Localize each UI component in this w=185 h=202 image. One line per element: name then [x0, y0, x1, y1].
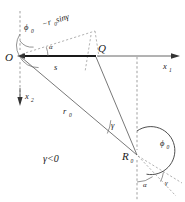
label-x2-axis-subscript: 2 [31, 97, 34, 103]
segment-r0 [21, 57, 137, 155]
projection-dashed-upper [22, 31, 95, 54]
label-gamma-at-r0: γ [111, 120, 115, 130]
label-segment-r0: r [63, 106, 67, 116]
label-phi0-origin-subscript: 0 [31, 28, 34, 34]
arc-phi0-at-r0 [137, 127, 175, 175]
label-phi0-origin: ϕ [24, 22, 29, 32]
label-projection-tail: sinγ [55, 11, 71, 25]
label-alpha-lower: α [143, 181, 147, 189]
label-origin: O [5, 51, 13, 63]
x2-axis-arrowhead [17, 97, 22, 106]
segment-q-to-r0 [96, 57, 137, 155]
label-r-point-subscript: 0 [131, 158, 134, 164]
label-phi0-at-r0-subscript: 0 [167, 144, 170, 150]
dashed-ray-extension-gamma [138, 156, 182, 183]
label-phi0-at-r0: ϕ [160, 138, 165, 148]
label-gamma-lower: γ [165, 179, 168, 187]
arc-gamma-lower [161, 172, 164, 181]
label-q-point: Q [98, 42, 106, 54]
diagram-canvas: O Q R 0 x 1 x 2 s r 0 −r 0 sinγ ϕ 0 α γ … [0, 0, 185, 202]
label-x2-axis: x [24, 91, 29, 101]
label-segment-s: s [54, 62, 58, 72]
arc-alpha-origin [46, 47, 48, 56]
geometry-figure: O Q R 0 x 1 x 2 s r 0 −r 0 sinγ ϕ 0 α γ … [0, 0, 185, 202]
label-projection-group: −r 0 sinγ [41, 11, 72, 30]
dashed-through-q [85, 35, 91, 72]
label-projection-head: −r [41, 17, 53, 29]
label-x1-axis: x [162, 61, 167, 71]
arc-small-origin [20, 41, 34, 47]
label-segment-r0-subscript: 0 [69, 112, 72, 118]
label-x1-axis-subscript: 1 [169, 67, 172, 73]
label-gamma-condition: γ<0 [43, 153, 59, 164]
label-r-point: R [121, 150, 129, 162]
label-alpha-origin: α [49, 43, 53, 51]
x1-axis-arrowhead [171, 53, 180, 59]
